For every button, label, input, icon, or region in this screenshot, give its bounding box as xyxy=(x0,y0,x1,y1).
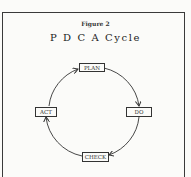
stage-check-label: CHECK xyxy=(85,154,106,160)
stage-act-label: ACT xyxy=(40,109,52,115)
stage-check: CHECK xyxy=(82,152,109,162)
stage-plan: PLAN xyxy=(79,63,105,72)
stage-do: DO xyxy=(126,107,152,117)
arrow-check-to-act xyxy=(46,117,82,156)
arrow-plan-to-do xyxy=(104,68,139,106)
stage-act: ACT xyxy=(35,107,57,117)
arrow-do-to-check xyxy=(109,117,139,155)
cycle-arrows xyxy=(0,0,191,177)
stage-do-label: DO xyxy=(135,109,144,115)
stage-plan-label: PLAN xyxy=(84,65,100,71)
arrow-act-to-plan xyxy=(49,69,78,106)
